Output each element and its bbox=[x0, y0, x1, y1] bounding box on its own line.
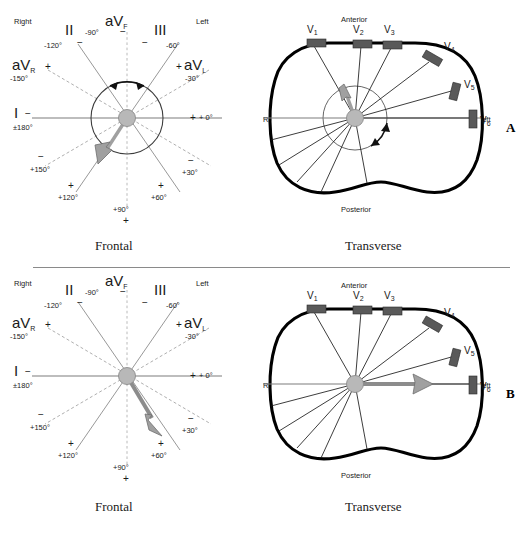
deg-avl-b: -30° bbox=[185, 332, 199, 341]
frontal-b-right-label: Right bbox=[14, 279, 32, 288]
deg-120-b: +120° bbox=[58, 451, 78, 460]
sign-avl: + bbox=[176, 61, 182, 72]
sign-60-b: + bbox=[158, 438, 164, 449]
electrode-v1 bbox=[307, 39, 326, 47]
electrode-v3 bbox=[383, 41, 402, 49]
sign-30: − bbox=[188, 155, 194, 166]
sign-avr: + bbox=[45, 61, 51, 72]
transverse-diagram-a: Anterior Posterior Right Left bbox=[263, 0, 525, 266]
deg-30-b: +30° bbox=[182, 426, 198, 435]
sign-30-b: − bbox=[188, 413, 194, 424]
sign-0: + bbox=[190, 112, 196, 123]
deg-0-b: + 0° bbox=[199, 371, 213, 380]
heart-hub-a bbox=[119, 110, 136, 127]
frontal-b-left-label: Left bbox=[196, 279, 209, 288]
deg-avr-b: -150° bbox=[10, 332, 28, 341]
deg-avf: -90° bbox=[85, 28, 99, 37]
deg-150-b: +150° bbox=[30, 423, 50, 432]
label-v1: V1 bbox=[307, 24, 318, 36]
label-v4: V4 bbox=[444, 41, 455, 53]
frontal-a-left-label: Left bbox=[196, 17, 209, 26]
deg-iii: -60° bbox=[166, 41, 180, 50]
label-lead-ii-b: II bbox=[65, 281, 73, 298]
deg-120: +120° bbox=[58, 193, 78, 202]
sign-60: + bbox=[158, 180, 164, 191]
transverse-b-posterior-label: Posterior bbox=[341, 471, 372, 480]
electrode-v2 bbox=[353, 40, 372, 48]
frontal-b-lead-labels: aVF -90° − II -120° − III -60° − aVR + -… bbox=[10, 272, 206, 390]
caption-frontal-a: Frontal bbox=[95, 238, 133, 253]
label-v3: V3 bbox=[384, 24, 395, 36]
label-lead-iii: III bbox=[154, 21, 167, 38]
sign-i-b: − bbox=[25, 366, 31, 377]
transverse-diagram-b: Anterior Posterior Right Left bbox=[263, 266, 525, 533]
panel-b: Right Left aVF -90° − II -120° − III -60… bbox=[0, 266, 525, 533]
label-lead-i-b: I bbox=[14, 362, 18, 379]
sign-ii-b: − bbox=[77, 297, 83, 308]
caption-transverse-a: Transverse bbox=[345, 238, 402, 253]
deg-avl: -30° bbox=[185, 74, 199, 83]
sign-120-b: + bbox=[68, 438, 74, 449]
sign-i: − bbox=[25, 108, 31, 119]
sign-90: + bbox=[123, 215, 129, 226]
panel-label-b: B bbox=[506, 386, 515, 401]
label-lead-avl: aVL bbox=[184, 56, 206, 74]
label-v1-b: V1 bbox=[307, 290, 318, 302]
electrode-v2-b bbox=[353, 306, 372, 314]
deg-60-b: +60° bbox=[151, 451, 167, 460]
sign-avr-b: + bbox=[45, 319, 51, 330]
heart-hub-b bbox=[119, 368, 136, 385]
deg-90: +90° bbox=[113, 205, 129, 214]
heart-hub-transverse-b bbox=[347, 376, 364, 393]
deg-0: + 0° bbox=[199, 113, 213, 122]
mean-vector-arrow-b bbox=[127, 376, 162, 436]
sign-iii: − bbox=[142, 37, 148, 48]
panel-label-a: A bbox=[506, 120, 516, 135]
sign-150: − bbox=[38, 151, 44, 162]
label-lead-avr: aVR bbox=[12, 56, 35, 74]
transverse-a-anterior-label: Anterior bbox=[341, 15, 368, 24]
deg-60: +60° bbox=[151, 193, 167, 202]
electrode-v6 bbox=[469, 110, 477, 128]
deg-30: +30° bbox=[182, 168, 198, 177]
transverse-a-posterior-label: Posterior bbox=[341, 205, 372, 214]
label-v4-b: V4 bbox=[444, 307, 455, 319]
sign-avf-b: − bbox=[120, 286, 126, 297]
deg-i: ±180° bbox=[13, 123, 33, 132]
sign-avf: − bbox=[120, 26, 126, 37]
frontal-a-right-label: Right bbox=[14, 17, 32, 26]
label-lead-avl-b: aVL bbox=[184, 314, 206, 332]
deg-ii: -120° bbox=[44, 41, 62, 50]
deg-i-b: ±180° bbox=[13, 381, 33, 390]
label-lead-avr-b: aVR bbox=[12, 314, 35, 332]
heart-hub-transverse-a bbox=[347, 110, 364, 127]
electrode-v1-b bbox=[307, 305, 326, 313]
panel-a: Right Left aVF -90° − II -120° − III -60… bbox=[0, 0, 525, 266]
electrode-v3-b bbox=[383, 307, 402, 315]
deg-avr: -150° bbox=[10, 74, 28, 83]
sign-90-b: + bbox=[123, 473, 129, 484]
label-lead-ii: II bbox=[65, 21, 73, 38]
transverse-b-anterior-label: Anterior bbox=[341, 281, 368, 290]
deg-avf-b: -90° bbox=[85, 288, 99, 297]
caption-transverse-b: Transverse bbox=[345, 499, 402, 514]
deg-ii-b: -120° bbox=[44, 301, 62, 310]
sign-ii: − bbox=[77, 37, 83, 48]
sign-0-b: + bbox=[190, 370, 196, 381]
label-lead-iii-b: III bbox=[154, 281, 167, 298]
frontal-a-lead-labels: aVF -90° − II -120° − III -60° − aVR + -… bbox=[10, 12, 206, 132]
label-v3-b: V3 bbox=[384, 290, 395, 302]
sign-150-b: − bbox=[38, 409, 44, 420]
deg-90-b: +90° bbox=[113, 463, 129, 472]
label-lead-i: I bbox=[14, 104, 18, 121]
label-v2: V2 bbox=[353, 24, 364, 36]
electrode-v6-b bbox=[469, 376, 477, 394]
frontal-diagram-a: Right Left aVF -90° − II -120° − III -60… bbox=[0, 0, 263, 266]
label-v2-b: V2 bbox=[353, 290, 364, 302]
deg-iii-b: -60° bbox=[166, 301, 180, 310]
deg-150: +150° bbox=[30, 165, 50, 174]
frontal-diagram-b: Right Left aVF -90° − II -120° − III -60… bbox=[0, 266, 263, 533]
sign-iii-b: − bbox=[142, 297, 148, 308]
sign-avl-b: + bbox=[176, 319, 182, 330]
sign-120: + bbox=[68, 180, 74, 191]
